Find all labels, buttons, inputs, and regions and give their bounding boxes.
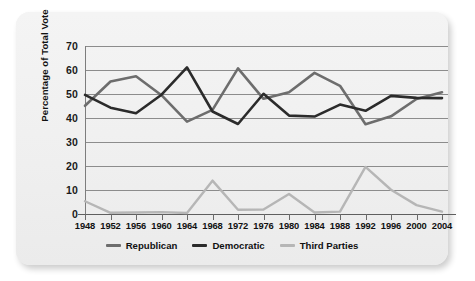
legend-item: Republican — [106, 240, 178, 251]
x-axis-labels: 1948195219561960196419681972197619801984… — [78, 220, 458, 236]
x-tick-label: 2000 — [406, 220, 426, 231]
legend-swatch-icon — [192, 244, 207, 247]
legend-swatch-icon — [280, 244, 295, 247]
legend-item: Democratic — [192, 240, 264, 251]
x-tick-label: 1968 — [202, 220, 222, 231]
x-tick-label: 1992 — [355, 220, 375, 231]
legend-swatch-icon — [106, 244, 121, 247]
x-tick-label: 1972 — [228, 220, 248, 231]
x-tick-label: 1960 — [151, 220, 171, 231]
legend-label: Democratic — [212, 240, 264, 251]
series-line-democratic — [85, 67, 442, 124]
chart-legend: RepublicanDemocraticThird Parties — [16, 240, 448, 251]
x-tick-label: 1996 — [381, 220, 401, 231]
x-tick-label: 1956 — [126, 220, 146, 231]
series-line-third-parties — [85, 167, 442, 213]
x-tick-label: 2004 — [432, 220, 452, 231]
legend-item: Third Parties — [280, 240, 359, 251]
x-tick-label: 1984 — [304, 220, 324, 231]
x-tick-label: 1980 — [279, 220, 299, 231]
x-tick-label: 1976 — [253, 220, 273, 231]
chart-card: Percentage of Total Vote 706050403020100… — [16, 12, 448, 265]
x-tick-label: 1952 — [100, 220, 120, 231]
legend-label: Republican — [126, 240, 178, 251]
x-tick-label: 1948 — [75, 220, 95, 231]
x-tick-label: 1988 — [330, 220, 350, 231]
x-tick-label: 1964 — [177, 220, 197, 231]
legend-label: Third Parties — [300, 240, 359, 251]
screenshot-root: Percentage of Total Vote 706050403020100… — [0, 0, 475, 281]
chart-card-surface: Percentage of Total Vote 706050403020100… — [16, 12, 448, 265]
